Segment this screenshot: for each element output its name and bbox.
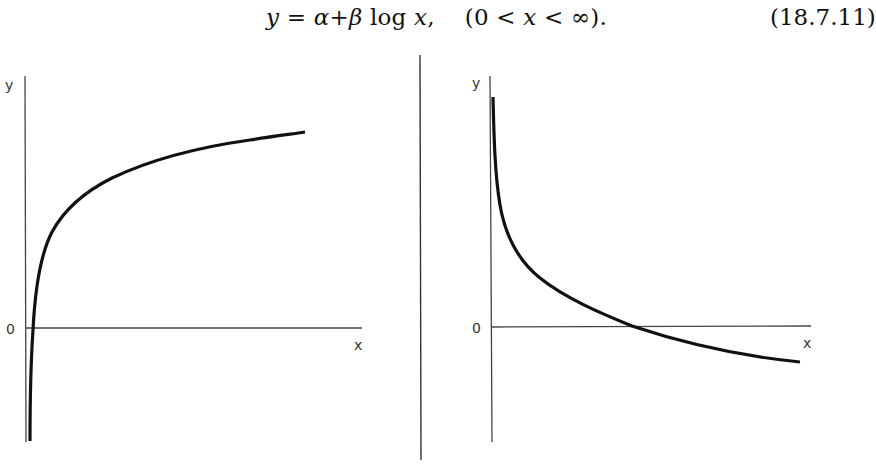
left-log-curve: [30, 132, 305, 441]
figure-divider: [420, 55, 421, 460]
left-y-axis: [25, 76, 26, 442]
right-origin-label: 0: [472, 320, 481, 336]
right-y-label: y: [472, 75, 480, 91]
left-chart: y 0 x: [5, 76, 362, 442]
left-y-label: y: [5, 77, 13, 93]
right-x-label: x: [803, 335, 811, 351]
right-log-curve: [493, 97, 800, 362]
left-origin-label: 0: [6, 321, 15, 337]
right-x-axis: [492, 326, 811, 327]
right-y-axis: [490, 76, 492, 442]
left-x-label: x: [354, 337, 362, 353]
right-chart: y 0 x: [472, 75, 811, 442]
